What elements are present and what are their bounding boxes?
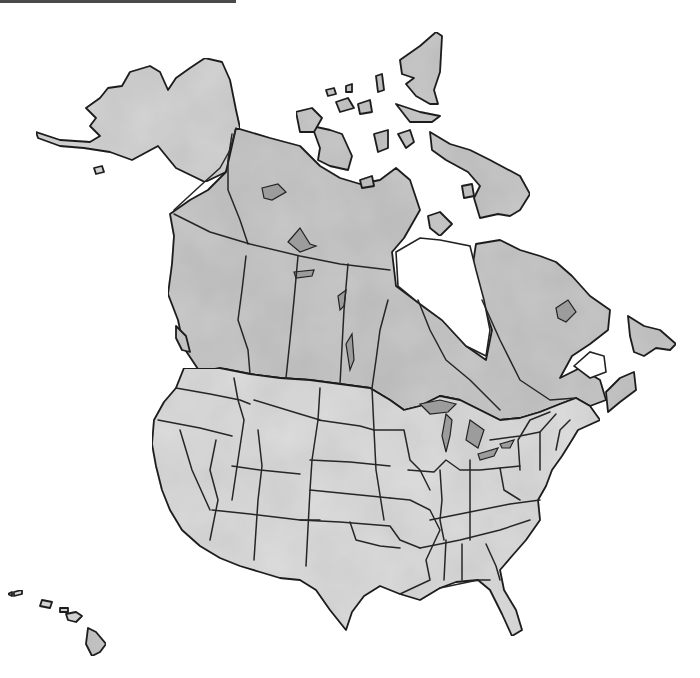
newfoundland [628, 316, 676, 356]
ellesmere-island [400, 32, 442, 104]
north-america-outline-map [0, 0, 700, 678]
hawaii [8, 590, 106, 656]
alaska [36, 58, 240, 182]
baffin-island [430, 132, 530, 218]
